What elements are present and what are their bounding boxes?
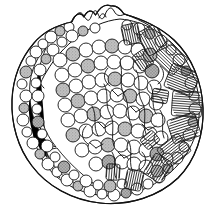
clear-vesicle	[27, 137, 39, 149]
clear-vesicle	[89, 157, 103, 171]
clear-vesicle	[95, 73, 109, 87]
dense-core-granule	[58, 161, 70, 173]
dense-core-granule	[71, 94, 85, 108]
dense-core-granule	[66, 128, 80, 142]
dense-core-granule	[81, 59, 95, 73]
cell-cross-section-illustration	[0, 0, 222, 218]
dense-core-granule	[104, 180, 116, 192]
clear-vesicle	[50, 152, 60, 162]
clear-vesicle	[143, 179, 153, 189]
dense-core-granule	[105, 39, 119, 53]
clear-vesicle	[114, 138, 128, 152]
clear-vesicle	[93, 180, 103, 190]
clear-vesicle	[100, 105, 114, 119]
clear-vesicle	[120, 56, 134, 70]
clear-vesicle	[97, 89, 111, 103]
clear-vesicle	[69, 79, 83, 93]
clear-vesicle	[107, 55, 121, 69]
clear-vesicle	[66, 30, 78, 42]
dense-core-granule	[55, 26, 65, 36]
dense-core-granule	[78, 26, 88, 36]
dense-core-granule	[108, 72, 122, 86]
clear-vesicle	[22, 127, 32, 137]
dense-core-granule	[56, 83, 70, 97]
clear-vesicle	[69, 170, 79, 180]
clear-vesicle	[84, 91, 98, 105]
clear-vesicle	[58, 98, 72, 112]
clear-vesicle	[55, 68, 69, 82]
clear-vesicle	[75, 143, 89, 157]
clear-vesicle	[90, 23, 100, 33]
clear-vesicle	[41, 140, 53, 152]
clear-vesicle	[20, 90, 32, 102]
dense-core-granule	[118, 122, 132, 136]
clear-vesicle	[92, 40, 106, 54]
dense-core-granule	[19, 103, 29, 113]
clear-vesicle	[57, 37, 67, 47]
dense-core-granule	[41, 54, 51, 64]
clear-vesicle	[74, 109, 88, 123]
clear-vesicle	[37, 129, 47, 139]
clear-vesicle	[68, 63, 82, 77]
clear-vesicle	[53, 53, 67, 67]
clear-vesicle	[134, 76, 148, 90]
figure-root: Cell Cross-Section Schematic granulated …	[0, 0, 222, 218]
clear-vesicle	[94, 56, 108, 70]
dense-core-granule	[32, 116, 44, 128]
dense-core-granule	[66, 47, 80, 61]
clear-vesicle	[92, 122, 106, 136]
clear-vesicle	[61, 113, 75, 127]
clear-vesicle	[113, 104, 127, 118]
dense-core-granule	[20, 66, 32, 78]
clear-vesicle	[80, 175, 92, 187]
clear-vesicle	[17, 79, 27, 89]
clear-vesicle	[82, 75, 96, 89]
dense-core-granule	[87, 107, 101, 121]
clear-vesicle	[121, 73, 135, 87]
clear-vesicle	[79, 43, 93, 57]
clear-vesicle	[32, 90, 44, 102]
clear-vesicle	[31, 78, 41, 88]
clear-vesicle	[32, 104, 42, 114]
clear-vesicle	[34, 64, 46, 76]
clear-vesicle	[17, 114, 29, 126]
